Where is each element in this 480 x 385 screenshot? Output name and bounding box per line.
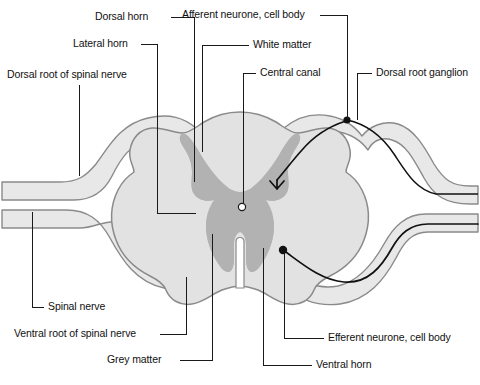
spinal-cord-diagram: Dorsal horn Lateral horn Dorsal root of …	[0, 0, 480, 385]
label-central-canal: Central canal	[260, 66, 321, 78]
label-white-matter: White matter	[253, 38, 311, 50]
central-canal-dot	[238, 203, 245, 210]
label-ventral-root-of-spinal-nerve: Ventral root of spinal nerve	[14, 327, 136, 339]
label-spinal-nerve: Spinal nerve	[48, 300, 105, 312]
spinal-cord-body	[112, 112, 369, 304]
label-ventral-horn: Ventral horn	[316, 358, 371, 370]
label-dorsal-root-of-spinal-nerve: Dorsal root of spinal nerve	[7, 68, 127, 80]
ventral-median-fissure	[236, 238, 244, 289]
label-grey-matter: Grey matter	[107, 353, 161, 365]
label-dorsal-root-ganglion: Dorsal root ganglion	[376, 66, 468, 78]
label-lateral-horn: Lateral horn	[73, 37, 128, 49]
label-dorsal-horn: Dorsal horn	[95, 10, 148, 22]
leader-afferent-cell-body	[320, 15, 347, 118]
label-afferent-neurone-cell-body: Afferent neurone, cell body	[182, 8, 305, 20]
label-efferent-neurone-cell-body: Efferent neurone, cell body	[328, 331, 451, 343]
leader-dorsal-root-ganglion	[357, 73, 372, 120]
